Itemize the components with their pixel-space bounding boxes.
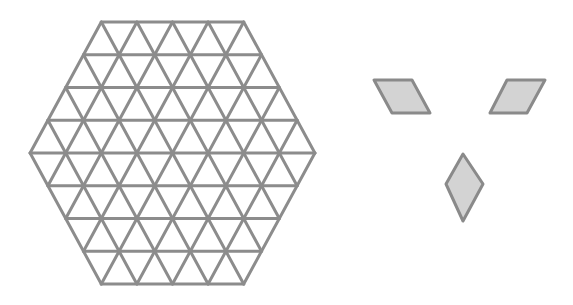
grid-line-diagonal-right	[48, 22, 137, 186]
hexagon-triangle-grid	[30, 22, 315, 284]
grid-line-diagonal-right	[84, 22, 209, 251]
diagram-canvas	[0, 0, 573, 305]
rhombus-tilted-right	[490, 80, 545, 113]
rhombus-tiles	[374, 80, 545, 221]
rhombus-tilted-left	[374, 80, 430, 113]
grid-line-diagonal-left	[48, 120, 137, 284]
grid-line-diagonal-left	[208, 22, 297, 186]
grid-line-diagonal-right	[137, 55, 262, 284]
grid-line-diagonal-left	[137, 22, 262, 251]
grid-line-diagonal-left	[84, 55, 209, 284]
rhombus-vertical	[446, 154, 483, 221]
grid-line-diagonal-right	[208, 120, 297, 284]
